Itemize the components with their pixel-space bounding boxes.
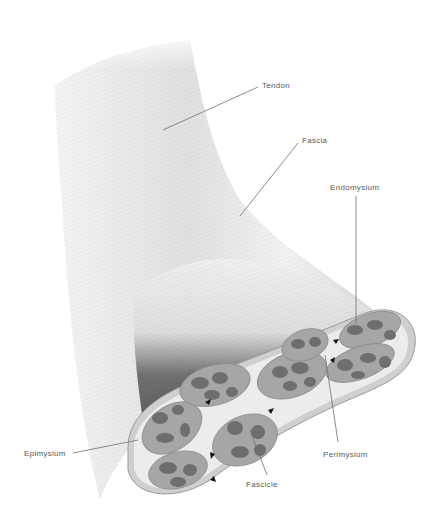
label-fascicle: Fascicle xyxy=(246,480,278,489)
label-tendon: Tendon xyxy=(262,81,290,90)
fascia-leader xyxy=(240,143,298,216)
label-epimysium: Epimysium xyxy=(24,449,66,458)
label-fascia: Fascia xyxy=(302,136,327,145)
muscle-illustration xyxy=(0,0,429,523)
label-endomysium: Endomysium xyxy=(330,183,379,192)
label-perimysium: Perimysium xyxy=(323,450,368,459)
